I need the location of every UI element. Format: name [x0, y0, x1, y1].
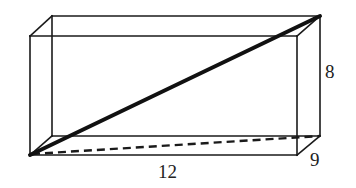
- base-diagonal-dashed: [32, 136, 320, 154]
- height-label: 8: [325, 62, 335, 81]
- width-label: 9: [310, 150, 320, 169]
- length-label: 12: [158, 162, 177, 181]
- rectangular-prism-diagram: [0, 0, 356, 188]
- space-diagonal: [30, 16, 320, 155]
- depth-edge-top-left: [30, 16, 52, 36]
